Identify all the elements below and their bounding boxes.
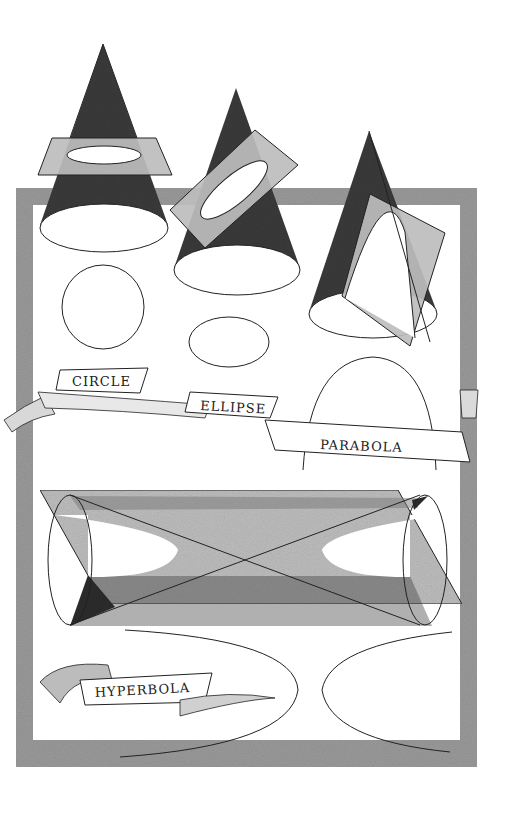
conic-sections-illustration: CIRCLE ELLIPSE PARABOLA HYPERBOLA <box>0 0 530 819</box>
parabola-cone <box>309 131 445 346</box>
label-parabola: PARABOLA <box>320 437 403 455</box>
ellipse-shape <box>189 317 269 367</box>
circle-shape <box>62 265 144 349</box>
label-circle: CIRCLE <box>72 374 131 389</box>
hyperbola-double-cone <box>40 490 462 626</box>
hyperbola-right-branch <box>322 632 452 752</box>
circle-cone <box>38 44 172 252</box>
